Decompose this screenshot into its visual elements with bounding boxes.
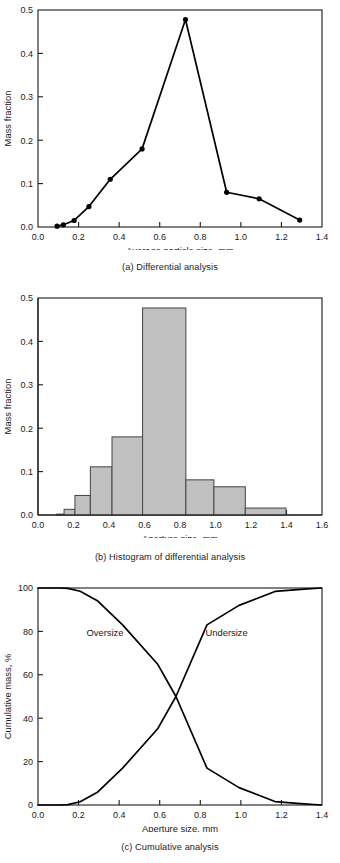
y-tick-label: 0.0 bbox=[20, 222, 33, 232]
panel-a-differential-analysis: 0.00.20.40.60.81.01.21.40.00.10.20.30.40… bbox=[0, 0, 340, 280]
data-point-marker bbox=[108, 177, 113, 182]
panel-b-plot: 0.00.20.40.60.81.01.21.41.60.00.10.20.30… bbox=[0, 280, 340, 538]
y-tick-label: 0.3 bbox=[20, 92, 33, 102]
y-tick-label: 0.2 bbox=[20, 424, 33, 434]
panel-a-plot: 0.00.20.40.60.81.01.21.40.00.10.20.30.40… bbox=[0, 0, 340, 250]
x-tick-label: 0.8 bbox=[194, 232, 207, 242]
plot-frame bbox=[38, 588, 322, 805]
x-tick-label: 0.0 bbox=[32, 810, 45, 820]
data-point-marker bbox=[183, 17, 188, 22]
x-tick-label: 1.0 bbox=[209, 520, 222, 530]
panel-b-histogram: 0.00.20.40.60.81.01.21.41.60.00.10.20.30… bbox=[0, 280, 340, 570]
data-point-marker bbox=[72, 218, 77, 223]
figure-page: 0.00.20.40.60.81.01.21.40.00.10.20.30.40… bbox=[0, 0, 340, 863]
panel-c-plot: 0.00.20.40.60.81.01.21.4020406080100Aper… bbox=[0, 570, 340, 832]
y-axis-title: Mass fraction bbox=[2, 91, 13, 147]
data-point-marker bbox=[54, 224, 59, 229]
histogram-bar bbox=[64, 509, 75, 515]
data-point-marker bbox=[224, 190, 229, 195]
x-tick-label: 0.4 bbox=[103, 520, 116, 530]
histogram-bar bbox=[186, 480, 214, 515]
histogram-bar bbox=[245, 508, 286, 515]
x-tick-label: 0.2 bbox=[67, 520, 80, 530]
x-tick-label: 1.4 bbox=[316, 232, 329, 242]
histogram-bar bbox=[112, 437, 143, 515]
y-tick-label: 0.0 bbox=[20, 510, 33, 520]
x-tick-label: 0.4 bbox=[113, 232, 126, 242]
plot-frame bbox=[38, 10, 322, 227]
oversize-label: Oversize bbox=[86, 627, 123, 638]
panel-c-cumulative-analysis: 0.00.20.40.60.81.01.21.4020406080100Aper… bbox=[0, 570, 340, 863]
undersize-curve bbox=[38, 588, 321, 805]
x-tick-label: 1.2 bbox=[245, 520, 258, 530]
x-tick-label: 0.0 bbox=[32, 232, 45, 242]
x-tick-label: 0.6 bbox=[153, 232, 166, 242]
y-tick-label: 40 bbox=[23, 714, 33, 724]
y-tick-label: 0.5 bbox=[20, 5, 33, 15]
x-tick-label: 1.0 bbox=[235, 810, 248, 820]
y-tick-label: 20 bbox=[23, 757, 33, 767]
x-tick-label: 0.2 bbox=[72, 810, 85, 820]
y-tick-label: 0 bbox=[28, 800, 33, 810]
y-axis-title: Mass fraction bbox=[2, 379, 13, 435]
x-axis-title: Aperture size, mm bbox=[142, 823, 218, 832]
panel-c-caption: (c) Cumulative analysis bbox=[0, 842, 340, 852]
histogram-bar bbox=[143, 308, 186, 515]
x-tick-label: 0.6 bbox=[138, 520, 151, 530]
y-tick-label: 0.4 bbox=[20, 337, 33, 347]
y-tick-label: 60 bbox=[23, 670, 33, 680]
x-tick-label: 1.2 bbox=[275, 810, 288, 820]
x-tick-label: 1.4 bbox=[280, 520, 293, 530]
data-point-marker bbox=[257, 196, 262, 201]
undersize-label: Undersize bbox=[206, 627, 248, 638]
y-tick-label: 0.1 bbox=[20, 179, 33, 189]
x-tick-label: 1.4 bbox=[316, 810, 329, 820]
x-tick-label: 0.4 bbox=[113, 810, 126, 820]
histogram-bar bbox=[214, 487, 245, 515]
x-axis-title: Aperture size, mm bbox=[142, 533, 218, 538]
y-axis-title: Cumulative mass, % bbox=[2, 654, 13, 739]
histogram-bar bbox=[90, 467, 112, 515]
panel-a-caption: (a) Differential analysis bbox=[0, 262, 340, 272]
y-tick-label: 80 bbox=[23, 627, 33, 637]
panel-b-caption: (b) Histogram of differential analysis bbox=[0, 552, 340, 562]
y-tick-label: 0.1 bbox=[20, 467, 33, 477]
x-tick-label: 0.8 bbox=[194, 810, 207, 820]
y-tick-label: 0.3 bbox=[20, 380, 33, 390]
x-tick-label: 1.0 bbox=[235, 232, 248, 242]
y-tick-label: 0.2 bbox=[20, 136, 33, 146]
x-tick-label: 1.6 bbox=[316, 520, 329, 530]
data-point-marker bbox=[86, 204, 91, 209]
x-tick-label: 0.2 bbox=[72, 232, 85, 242]
y-tick-label: 0.4 bbox=[20, 49, 33, 59]
x-tick-label: 0.6 bbox=[153, 810, 166, 820]
y-tick-label: 0.5 bbox=[20, 293, 33, 303]
mass-fraction-curve bbox=[57, 20, 300, 227]
data-point-marker bbox=[297, 217, 302, 222]
data-point-marker bbox=[139, 146, 144, 151]
y-tick-label: 100 bbox=[18, 583, 33, 593]
data-point-marker bbox=[61, 222, 66, 227]
x-axis-title: Average particle size, mm bbox=[126, 245, 234, 250]
x-tick-label: 0.0 bbox=[32, 520, 45, 530]
x-tick-label: 1.2 bbox=[275, 232, 288, 242]
histogram-bar bbox=[75, 495, 90, 515]
x-tick-label: 0.8 bbox=[174, 520, 187, 530]
oversize-curve bbox=[38, 588, 321, 805]
